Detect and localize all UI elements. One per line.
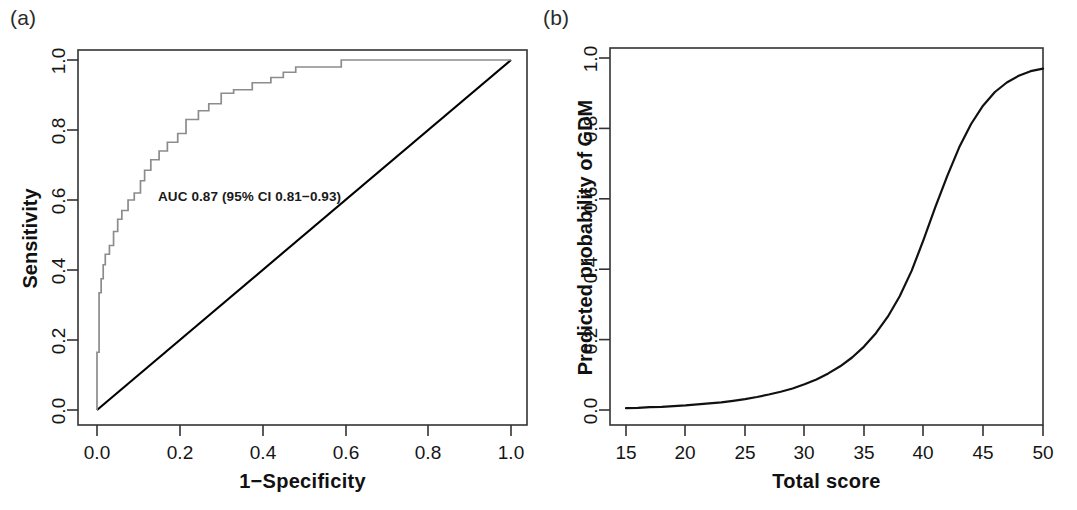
- panel-a-ytick-3: 0.6: [48, 179, 70, 223]
- panel-a-xtick-3: 0.6: [333, 442, 359, 464]
- panel-a-xtick-2: 0.4: [250, 442, 276, 464]
- panel-a-auc-annotation: AUC 0.87 (95% CI 0.81−0.93): [158, 189, 341, 204]
- panel-b-xtick-1: 20: [674, 442, 695, 464]
- panel-a-ytick-2: 0.4: [48, 249, 70, 293]
- panel-b-predicted-probability: (b): [537, 0, 1077, 510]
- panel-a-roc: (a): [0, 0, 537, 510]
- panel-b-xtick-0: 15: [615, 442, 636, 464]
- panel-b-xtick-5: 40: [912, 442, 933, 464]
- panel-a-xtick-1: 0.2: [167, 442, 193, 464]
- panel-b-xticks: [626, 425, 1043, 436]
- panel-b-plot-box: [610, 48, 1043, 425]
- panel-a-xticks: [97, 425, 511, 436]
- panel-b-xtick-3: 30: [793, 442, 814, 464]
- panel-b-xaxis-title: Total score: [610, 470, 1043, 493]
- panel-a-xtick-0: 0.0: [84, 442, 110, 464]
- panel-a-ytick-5: 1.0: [48, 39, 70, 83]
- panel-b-logistic-curve: [626, 69, 1043, 409]
- panel-a-diagonal-line: [97, 60, 511, 410]
- panel-b-xtick-7: 50: [1032, 442, 1053, 464]
- panel-b-xtick-6: 45: [972, 442, 993, 464]
- panel-b-yaxis-title: Predicted probability of GDM: [574, 48, 597, 428]
- panel-a-plot: [0, 0, 537, 510]
- panel-a-ytick-4: 0.8: [48, 109, 70, 153]
- panel-b-xtick-4: 35: [853, 442, 874, 464]
- panel-a-xtick-5: 1.0: [498, 442, 524, 464]
- panel-a-xaxis-title: 1−Specificity: [78, 470, 527, 493]
- figure-container: (a): [0, 0, 1077, 510]
- panel-b-xtick-2: 25: [734, 442, 755, 464]
- panel-a-ytick-0: 0.0: [48, 389, 70, 433]
- panel-a-yaxis-title: Sensitivity: [19, 149, 42, 329]
- panel-a-ytick-1: 0.2: [48, 319, 70, 363]
- panel-a-xtick-4: 0.8: [415, 442, 441, 464]
- panel-b-plot: [537, 0, 1077, 510]
